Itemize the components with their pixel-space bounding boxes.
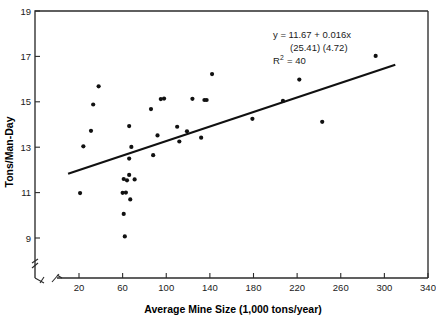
data-point bbox=[177, 139, 181, 143]
x-tick-label: 100 bbox=[158, 282, 174, 293]
data-point bbox=[155, 133, 159, 137]
data-point bbox=[91, 102, 95, 106]
annotation-equation: y = 11.67 + 0.016x bbox=[273, 29, 351, 40]
data-point bbox=[127, 124, 131, 128]
data-point bbox=[320, 120, 324, 124]
data-point bbox=[162, 97, 166, 101]
scatter-plot-figure: 2060100140180220260300340 91113151719 Av… bbox=[0, 0, 436, 320]
data-point bbox=[133, 177, 137, 181]
data-point bbox=[149, 107, 153, 111]
data-point bbox=[128, 197, 132, 201]
annotation-r-symbol: R bbox=[273, 55, 280, 66]
annotation-standard-errors: (25.41) (4.72) bbox=[290, 42, 348, 53]
x-tick-label: 20 bbox=[74, 282, 85, 293]
data-point bbox=[124, 191, 128, 195]
data-point bbox=[123, 234, 127, 238]
annotation-r-exponent: 2 bbox=[280, 54, 284, 61]
data-point bbox=[281, 99, 285, 103]
data-point bbox=[127, 173, 131, 177]
y-tick-label: 9 bbox=[26, 233, 31, 244]
x-axis-title: Average Mine Size (1,000 tons/year) bbox=[144, 303, 322, 315]
data-point bbox=[127, 156, 131, 160]
data-point bbox=[297, 77, 301, 81]
annotation-r-squared: R 2 = 40 bbox=[273, 54, 306, 66]
x-tick-label: 340 bbox=[420, 282, 436, 293]
data-point bbox=[205, 98, 209, 102]
x-tick-label: 60 bbox=[117, 282, 128, 293]
data-point bbox=[374, 54, 378, 58]
data-points-group bbox=[78, 54, 378, 239]
data-point bbox=[250, 117, 254, 121]
regression-line bbox=[68, 65, 395, 174]
data-point bbox=[199, 136, 203, 140]
data-point bbox=[185, 129, 189, 133]
data-point bbox=[89, 129, 93, 133]
data-point bbox=[151, 153, 155, 157]
x-tick-label: 260 bbox=[333, 282, 349, 293]
y-tick-label: 17 bbox=[20, 51, 31, 62]
tick-marks-group bbox=[35, 11, 428, 278]
data-point bbox=[78, 191, 82, 195]
data-point bbox=[125, 178, 129, 182]
x-tick-label: 220 bbox=[289, 282, 305, 293]
data-point bbox=[175, 125, 179, 129]
y-tick-label: 13 bbox=[20, 142, 31, 153]
data-point bbox=[210, 72, 214, 76]
x-tick-label: 140 bbox=[202, 282, 218, 293]
data-point bbox=[190, 97, 194, 101]
x-tick-label: 300 bbox=[376, 282, 392, 293]
y-axis-title: Tons/Man-Day bbox=[3, 116, 15, 187]
y-tick-label: 15 bbox=[20, 96, 31, 107]
data-point bbox=[81, 144, 85, 148]
data-point bbox=[129, 145, 133, 149]
y-tick-label: 19 bbox=[20, 6, 31, 17]
plot-canvas: 2060100140180220260300340 91113151719 Av… bbox=[0, 0, 436, 320]
regression-line-path bbox=[68, 65, 395, 174]
axes-group bbox=[32, 11, 428, 283]
x-tick-label: 180 bbox=[246, 282, 262, 293]
annotation-r-squared-value: = 40 bbox=[287, 55, 306, 66]
data-point bbox=[122, 212, 126, 216]
y-tick-label: 11 bbox=[21, 187, 31, 198]
x-tick-labels: 2060100140180220260300340 bbox=[74, 282, 436, 293]
data-point bbox=[97, 84, 101, 88]
y-tick-labels: 91113151719 bbox=[20, 6, 31, 244]
regression-annotation: y = 11.67 + 0.016x (25.41) (4.72) R 2 = … bbox=[273, 29, 351, 66]
